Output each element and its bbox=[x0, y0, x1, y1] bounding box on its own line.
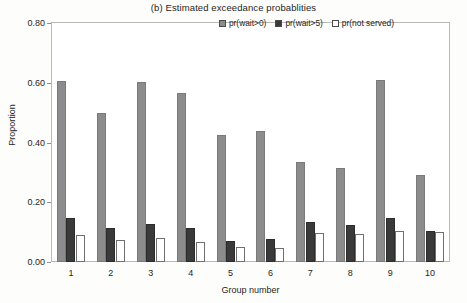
bar-group bbox=[256, 23, 284, 262]
bar-pr-not-served bbox=[435, 232, 444, 262]
bar-group bbox=[296, 23, 324, 262]
bar-pr-wait-5 bbox=[106, 228, 115, 262]
x-tick-label: 3 bbox=[148, 268, 153, 278]
bar-group bbox=[137, 23, 165, 262]
bar-pr-not-served bbox=[156, 238, 165, 262]
bar-pr-wait-5 bbox=[306, 222, 315, 262]
bar-pr-not-served bbox=[355, 234, 364, 262]
bar-pr-wait-5 bbox=[146, 224, 155, 262]
bar-group bbox=[416, 23, 444, 262]
bar-pr-wait-0 bbox=[57, 81, 66, 262]
bar-pr-wait-0 bbox=[177, 93, 186, 262]
x-tick-label: 5 bbox=[228, 268, 233, 278]
y-tick-label: 0.60 bbox=[27, 78, 45, 88]
x-tick-label: 9 bbox=[388, 268, 393, 278]
bar-pr-not-served bbox=[116, 240, 125, 262]
bar-pr-wait-5 bbox=[186, 228, 195, 262]
bar-pr-wait-5 bbox=[346, 225, 355, 262]
bar-group bbox=[217, 23, 245, 262]
bar-pr-wait-5 bbox=[66, 218, 75, 262]
bar-pr-wait-5 bbox=[226, 241, 235, 263]
x-tick-label: 4 bbox=[188, 268, 193, 278]
x-tick-label: 7 bbox=[308, 268, 313, 278]
bar-group bbox=[57, 23, 85, 262]
bar-group bbox=[336, 23, 364, 262]
bar-pr-wait-5 bbox=[266, 239, 275, 262]
x-tick-label: 8 bbox=[348, 268, 353, 278]
bar-pr-not-served bbox=[395, 231, 404, 262]
bar-group bbox=[97, 23, 125, 262]
bar-chart: (b) Estimated exceedance probablities 0.… bbox=[0, 0, 467, 303]
bar-pr-wait-5 bbox=[386, 218, 395, 262]
y-tick-label: 0.20 bbox=[27, 197, 45, 207]
bar-pr-not-served bbox=[275, 248, 284, 262]
bar-pr-wait-0 bbox=[376, 80, 385, 262]
bar-pr-wait-0 bbox=[97, 113, 106, 262]
y-tick-label: 0.00 bbox=[27, 257, 45, 267]
bar-pr-not-served bbox=[76, 235, 85, 262]
bar-pr-wait-0 bbox=[336, 168, 345, 262]
bar-pr-wait-0 bbox=[296, 162, 305, 262]
x-tick-label: 10 bbox=[425, 268, 435, 278]
y-tick-mark bbox=[47, 262, 51, 263]
bar-pr-wait-0 bbox=[256, 131, 265, 262]
plot-area bbox=[51, 22, 450, 262]
bar-pr-wait-0 bbox=[137, 82, 146, 262]
bar-pr-wait-5 bbox=[426, 231, 435, 262]
bar-pr-not-served bbox=[196, 242, 205, 262]
y-tick-label: 0.40 bbox=[27, 138, 45, 148]
chart-title: (b) Estimated exceedance probablities bbox=[0, 2, 467, 13]
bar-pr-wait-0 bbox=[217, 135, 226, 262]
bar-pr-wait-0 bbox=[416, 175, 425, 262]
y-tick-label: 0.80 bbox=[27, 18, 45, 28]
bar-pr-not-served bbox=[236, 247, 245, 262]
x-tick-label: 1 bbox=[68, 268, 73, 278]
bar-pr-not-served bbox=[315, 233, 324, 262]
bar-group bbox=[177, 23, 205, 262]
x-tick-label: 6 bbox=[268, 268, 273, 278]
y-axis-title: Proportion bbox=[7, 80, 17, 170]
x-axis-title: Group number bbox=[51, 285, 450, 295]
bar-group bbox=[376, 23, 404, 262]
x-tick-label: 2 bbox=[108, 268, 113, 278]
